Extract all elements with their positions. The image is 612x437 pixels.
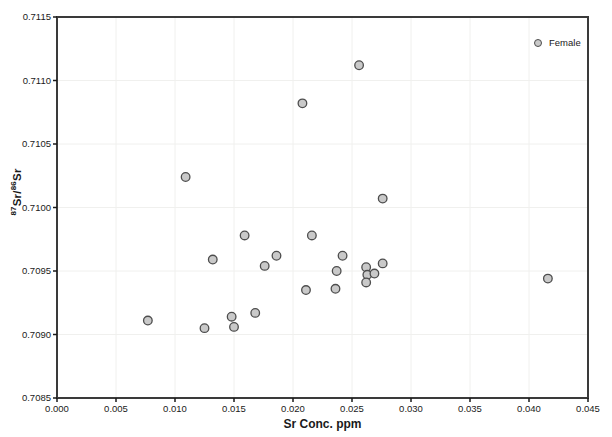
x-tick-label: 0.040: [517, 403, 541, 414]
legend: Female: [534, 37, 581, 48]
x-axis-title: Sr Conc. ppm: [57, 417, 588, 431]
y-tick-label: 0.7110: [23, 75, 51, 86]
data-point: [260, 262, 269, 271]
data-point: [544, 274, 553, 283]
y-tick-label: 0.7085: [22, 392, 51, 403]
data-point: [331, 284, 340, 293]
data-point: [332, 267, 341, 276]
y-tick-label: 0.7095: [22, 265, 51, 276]
x-tick-label: 0.030: [399, 403, 423, 414]
data-point: [200, 324, 209, 333]
data-point: [378, 259, 387, 268]
x-tick-label: 0.045: [576, 403, 600, 414]
x-tick-label: 0.005: [104, 403, 128, 414]
data-point: [227, 312, 236, 321]
data-point: [144, 316, 153, 325]
x-tick-label: 0.025: [340, 403, 364, 414]
data-point: [181, 173, 190, 182]
data-point: [208, 255, 217, 264]
data-point: [370, 269, 379, 278]
x-tick-label: 0.010: [163, 403, 187, 414]
y-tick-label: 0.7105: [22, 138, 51, 149]
data-point: [378, 194, 387, 203]
data-point: [362, 278, 371, 287]
y-tick-label: 0.7115: [23, 11, 51, 22]
x-tick-label: 0.035: [458, 403, 482, 414]
data-point: [298, 99, 307, 108]
data-point: [308, 231, 317, 240]
x-tick-label: 0.020: [281, 403, 305, 414]
data-point: [240, 231, 249, 240]
data-point: [251, 309, 260, 318]
scatter-chart-figure: 0.0000.0050.0100.0150.0200.0250.0300.035…: [0, 0, 612, 437]
y-tick-label: 0.7090: [22, 329, 51, 340]
data-point: [272, 251, 281, 260]
data-point: [338, 251, 347, 260]
legend-marker-icon: [534, 39, 542, 47]
legend-label: Female: [549, 37, 581, 48]
x-tick-label: 0.015: [222, 403, 246, 414]
x-tick-label: 0.000: [45, 403, 69, 414]
y-tick-label: 0.7100: [22, 202, 51, 213]
data-point: [355, 61, 364, 70]
chart-canvas: 0.0000.0050.0100.0150.0200.0250.0300.035…: [0, 0, 612, 437]
data-point: [302, 286, 311, 295]
data-point: [230, 323, 239, 332]
